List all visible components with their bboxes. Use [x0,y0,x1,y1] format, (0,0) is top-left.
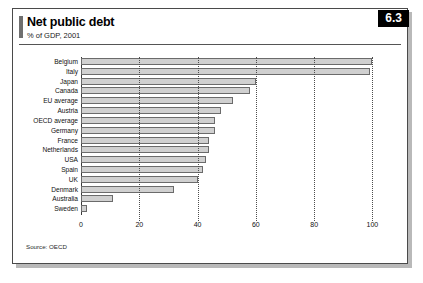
category-label: Netherlands [42,145,78,155]
category-label: EU average [43,96,78,106]
category-label: Belgium [54,57,78,67]
header-divider [19,44,401,45]
x-gridline [372,57,373,221]
bar [81,205,87,212]
x-gridline [139,57,140,221]
figure-number-badge: 6.3 [378,10,409,27]
category-label: Sweden [54,204,78,214]
bar-row [81,136,387,146]
category-label: Germany [51,126,78,136]
bar [81,68,370,75]
bar-row [81,165,387,175]
category-label: UK [69,175,78,185]
category-label: Italy [66,67,78,77]
bar-row [81,204,387,214]
bar [81,117,215,124]
bar-row [81,67,387,77]
bar-row [81,116,387,126]
bar-row [81,57,387,67]
bar-row [81,185,387,195]
bar [81,127,215,134]
bar [81,156,206,163]
category-label: OECD average [33,116,78,126]
category-label: USA [64,155,78,165]
x-tick-label: 100 [367,221,379,228]
category-label: Canada [55,86,78,96]
category-label: Spain [61,165,78,175]
bar [81,58,372,65]
bar-row [81,86,387,96]
bar-row [81,175,387,185]
bar-row [81,77,387,87]
bar [81,97,233,104]
plot-area [81,57,387,214]
bar [81,146,209,153]
title-accent-rule [19,16,23,38]
x-gridline [198,57,199,221]
chart-subtitle: % of GDP, 2001 [27,31,80,40]
category-axis-labels: BelgiumItalyJapanCanadaEU averageAustria… [20,57,78,214]
bar [81,195,113,202]
bar [81,186,174,193]
x-tick-label: 20 [135,221,143,228]
category-label: Austria [57,106,78,116]
bar-row [81,145,387,155]
x-gridline [314,57,315,221]
bar [81,87,250,94]
category-label: Australia [52,194,78,204]
bar-row [81,96,387,106]
x-tick-label: 80 [310,221,318,228]
x-gridline [256,57,257,221]
category-label: Japan [60,77,78,87]
x-tick-label: 0 [79,221,83,228]
bar [81,137,209,144]
bar-row [81,106,387,116]
bar-row [81,155,387,165]
bar [81,166,203,173]
category-label: Denmark [51,185,78,195]
x-tick-label: 40 [194,221,202,228]
source-note: Source: OECD [26,243,67,250]
bar [81,107,221,114]
x-tick-label: 60 [252,221,260,228]
bar [81,78,256,85]
bar-row [81,126,387,136]
figure-page: Net public debt % of GDP, 2001 6.3 Belgi… [0,0,423,283]
category-label: France [57,136,78,146]
bar-rows [81,57,387,214]
page-title: Net public debt [27,15,114,29]
bar-row [81,194,387,204]
